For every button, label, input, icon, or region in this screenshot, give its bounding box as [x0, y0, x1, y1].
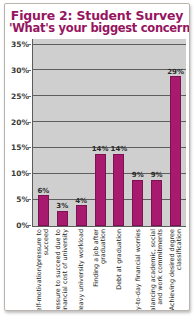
x-tick-label: Balancing academic, social and work comm… — [150, 229, 164, 311]
bar-value-label: 14% — [111, 145, 128, 153]
bars-layer: 6% 3% 4% 14% 14% — [33, 39, 186, 226]
y-tick-mark — [28, 225, 31, 226]
y-tick-mark — [28, 122, 31, 123]
y-tick-label: 10% — [11, 169, 29, 178]
x-tick-label: Heavy university workload — [77, 229, 84, 311]
x-tick-label: Achieving desired degree classification — [169, 229, 183, 311]
bar[interactable] — [38, 195, 49, 226]
bar-value-label: 29% — [167, 68, 184, 76]
chart-title-block: Figure 2: Student Survey 'What's your bi… — [5, 4, 189, 37]
x-tick: Finding a job after graduation — [90, 227, 109, 311]
bar-value-label: 6% — [37, 187, 49, 195]
bar-group[interactable]: 29% — [166, 39, 185, 226]
bar-value-label: 14% — [92, 145, 109, 153]
y-tick-label: 30% — [11, 65, 29, 74]
bar[interactable] — [76, 205, 87, 226]
x-tick: Pressure to succeed due to financial cos… — [52, 227, 71, 311]
x-tick-label: Day-to-day financial worries — [134, 229, 141, 311]
y-axis: 35% 30% 25% 20% 15% 10% 5% 0% — [7, 39, 31, 227]
bar-value-label: 9% — [151, 171, 163, 179]
x-tick: Heavy university workload — [71, 227, 90, 311]
y-tick-mark — [28, 96, 31, 97]
y-tick-label: 15% — [11, 143, 29, 152]
x-tick: Achieving desired degree classification — [166, 227, 185, 311]
bar-group[interactable]: 9% — [128, 39, 147, 226]
bar[interactable] — [57, 211, 68, 226]
bar-value-label: 3% — [56, 202, 68, 210]
bar-group[interactable]: 14% — [91, 39, 110, 226]
bar-group[interactable]: 3% — [53, 39, 72, 226]
x-tick-label: Debt at graduation — [115, 229, 122, 311]
x-tick: Self-motivation/pressure to succeed — [33, 227, 52, 311]
x-tick-label: Finding a job after graduation — [93, 229, 107, 311]
bar[interactable] — [170, 76, 181, 226]
bar-value-label: 4% — [75, 197, 87, 205]
y-tick-label: 35% — [11, 39, 29, 48]
x-tick-label: Self-motivation/pressure to succeed — [36, 229, 50, 311]
bar[interactable] — [151, 180, 162, 226]
y-tick-label: 25% — [11, 91, 29, 100]
y-tick-label: 20% — [11, 117, 29, 126]
y-tick-mark — [28, 147, 31, 148]
bar[interactable] — [132, 180, 143, 226]
y-tick-mark — [28, 199, 31, 200]
x-axis: Self-motivation/pressure to succeed Pres… — [32, 227, 186, 311]
plot-area: 35% 30% 25% 20% 15% 10% 5% 0% — [7, 39, 186, 227]
bar-group[interactable]: 9% — [147, 39, 166, 226]
y-tick-mark — [28, 173, 31, 174]
bar-group[interactable]: 14% — [110, 39, 129, 226]
bar[interactable] — [113, 154, 124, 226]
x-tick: Balancing academic, social and work comm… — [147, 227, 166, 311]
y-tick-mark — [28, 44, 31, 45]
figure-card: Figure 2: Student Survey 'What's your bi… — [4, 3, 190, 311]
bar[interactable] — [95, 154, 106, 226]
bar-group[interactable]: 6% — [34, 39, 53, 226]
plot-canvas: 6% 3% 4% 14% 14% — [32, 39, 186, 227]
x-tick-label: Pressure to succeed due to financial cos… — [55, 229, 69, 311]
chart-subtitle: 'What's your biggest concern?' — [9, 22, 185, 35]
bar-value-label: 9% — [132, 171, 144, 179]
y-tick-mark — [28, 70, 31, 71]
bar-group[interactable]: 4% — [72, 39, 91, 226]
x-tick: Debt at graduation — [109, 227, 128, 311]
x-tick: Day-to-day financial worries — [128, 227, 147, 311]
